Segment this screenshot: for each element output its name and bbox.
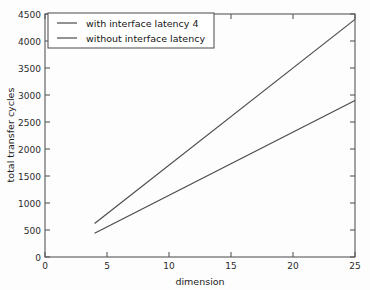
- series-line: [95, 100, 355, 233]
- y-tick-label: 4500: [18, 10, 41, 20]
- y-axis-ticks: [45, 14, 355, 257]
- x-tick-label: 15: [225, 261, 236, 271]
- x-tick-label: 5: [104, 261, 110, 271]
- x-tick-label: 10: [163, 261, 175, 271]
- data-series-group: [95, 19, 355, 233]
- legend: with interface latency 4 without interfa…: [48, 13, 214, 48]
- plot-frame: [45, 14, 355, 257]
- x-tick-label: 25: [349, 261, 360, 271]
- y-tick-label: 1500: [18, 172, 41, 182]
- y-tick-label: 0: [35, 253, 41, 263]
- legend-label: with interface latency 4: [86, 18, 199, 29]
- x-axis-ticks: [45, 14, 355, 257]
- x-tick-label: 0: [42, 261, 48, 271]
- legend-label: without interface latency: [86, 33, 205, 44]
- y-axis-title: total transfer cycles: [5, 88, 16, 183]
- y-tick-label: 1000: [18, 199, 41, 209]
- chart-figure: 0 500 1000 1500 2000 2500 3000 3500 4000…: [0, 0, 370, 290]
- y-tick-label: 2500: [18, 118, 41, 128]
- y-tick-label: 2000: [18, 145, 41, 155]
- x-axis-tick-labels: 0 5 10 15 20 25: [42, 261, 361, 271]
- y-axis-tick-labels: 0 500 1000 1500 2000 2500 3000 3500 4000…: [18, 10, 41, 263]
- y-tick-label: 500: [24, 226, 41, 236]
- y-tick-label: 3000: [18, 91, 41, 101]
- x-tick-label: 20: [287, 261, 299, 271]
- y-tick-label: 3500: [18, 64, 41, 74]
- series-line: [95, 19, 355, 223]
- y-tick-label: 4000: [18, 37, 41, 47]
- plot-canvas: 0 500 1000 1500 2000 2500 3000 3500 4000…: [0, 0, 370, 290]
- x-axis-title: dimension: [175, 276, 224, 287]
